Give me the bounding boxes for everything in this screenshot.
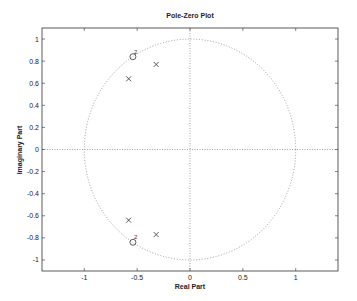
pole-zero-plot: -1-0.500.5110.80.60.40.20-0.2-0.4-0.6-0.… [0, 0, 357, 301]
y-tick-label: 0.6 [29, 80, 39, 87]
x-tick-label: -1 [81, 274, 87, 281]
pole-marker [126, 218, 131, 223]
y-tick-label: 0.4 [29, 102, 39, 109]
axis-ticks: -1-0.500.5110.80.60.40.20-0.2-0.4-0.6-0.… [27, 28, 338, 281]
x-tick-label: -0.5 [131, 274, 143, 281]
y-tick-label: -0.6 [27, 212, 39, 219]
y-tick-label: -0.8 [27, 234, 39, 241]
x-tick-label: 0.5 [238, 274, 248, 281]
y-tick-label: -1 [33, 256, 39, 263]
y-tick-label: -0.2 [27, 168, 39, 175]
x-tick-label: 0 [188, 274, 192, 281]
pole-zero-markers: 22 [126, 49, 158, 246]
pole-marker [154, 232, 159, 237]
y-tick-label: 0 [35, 146, 39, 153]
y-tick-label: 0.8 [29, 58, 39, 65]
multiplicity-label: 2 [134, 49, 138, 55]
y-tick-label: -0.4 [27, 190, 39, 197]
multiplicity-label: 2 [134, 234, 138, 240]
x-tick-label: 1 [294, 274, 298, 281]
y-tick-label: 0.2 [29, 124, 39, 131]
plot-axes [42, 28, 338, 271]
y-tick-label: 1 [35, 36, 39, 43]
pole-marker [126, 76, 131, 81]
pole-marker [154, 62, 159, 67]
